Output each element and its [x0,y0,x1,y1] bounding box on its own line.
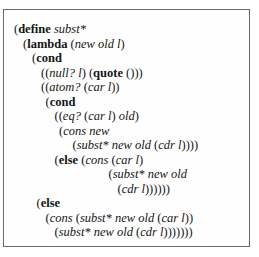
identifier: old [119,109,135,123]
code-line: (lambda (new old l) [14,37,198,52]
code-line: (cons (subst* new old (car l)) [14,211,198,226]
keyword: cond [50,95,76,109]
code-line: ((eq? (car l) old) [14,109,198,124]
keyword: else [59,153,78,167]
identifier: subst* new old [113,167,187,181]
code-line: (cdr l)))))) [14,182,198,197]
punctuation: )))) [182,138,199,152]
punctuation: ) [139,153,143,167]
identifier: atom? [49,80,80,94]
identifier: cdr l [158,138,181,152]
identifier: subst* [54,22,86,36]
punctuation: ( [108,153,115,167]
punctuation: ( [73,211,80,225]
code-line: (cond [14,95,198,110]
identifier: subst* new old [59,225,133,239]
code-line: (subst* new old (cdr l)))) [14,138,198,153]
punctuation: ) [121,37,125,51]
code-line: (else [14,196,198,211]
keyword: lambda [27,37,67,51]
identifier: cons [85,153,108,167]
punctuation: ( [67,37,74,51]
punctuation: ) ( [82,66,93,80]
identifier: cdr l [140,225,163,239]
code-line: (subst* new old [14,167,198,182]
code-frame: (define subst*(lambda (new old l)(cond((… [3,9,250,247]
identifier: car l [162,211,185,225]
identifier: car l [88,109,111,123]
punctuation: ( [154,211,161,225]
punctuation: ( [81,80,88,94]
code-listing: (define subst*(lambda (new old l)(cond((… [14,22,198,240]
identifier: new old l [75,37,121,51]
identifier: cons [50,211,73,225]
code-line: (else (cons (car l) [14,153,198,168]
code-line: (subst* new old (cdr l))))))) [14,225,198,240]
punctuation: ))))))) [164,225,193,239]
code-line: ((null? l) (quote ())) [14,66,198,81]
code-line: (define subst* [14,22,198,37]
identifier: eq? [63,109,81,123]
keyword: cond [36,51,62,65]
punctuation: ) [111,109,118,123]
punctuation: ) [135,109,139,123]
identifier: subst* new old [77,138,151,152]
identifier: car l [116,153,139,167]
code-line: (cons new [14,124,198,139]
punctuation: )) [185,211,193,225]
code-line: (cond [14,51,198,66]
keyword: quote [93,66,123,80]
keyword: define [18,22,51,36]
punctuation: ())) [123,66,143,80]
identifier: cons new [63,124,109,138]
identifier: subst* new old [80,211,154,225]
identifier: null? l [49,66,81,80]
punctuation: )))))) [145,182,170,196]
code-line: ((atom? (car l)) [14,80,198,95]
identifier: car l [88,80,111,94]
punctuation: (( [55,109,63,123]
keyword: else [41,196,60,210]
punctuation: )) [111,80,119,94]
identifier: cdr l [122,182,145,196]
